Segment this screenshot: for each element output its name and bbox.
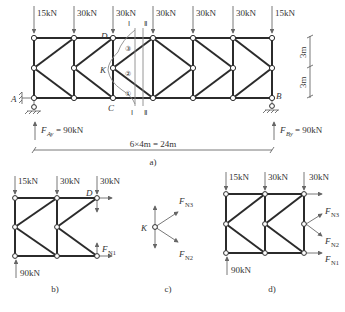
force-subscript: N2 (331, 241, 339, 248)
free-body-d: 15kN 30kN 30kN F N3 F N2 F N1 90kN d) (224, 172, 339, 294)
support-reaction: 90kN (231, 265, 252, 275)
force-symbol: F (324, 206, 331, 216)
section-label-ii: Ⅱ (144, 109, 147, 116)
reaction-b-value: = 90kN (295, 125, 323, 135)
reaction-b-subscript: By (286, 130, 293, 137)
reaction-a-value: = 90kN (56, 125, 84, 135)
member-label-1: ① (125, 90, 131, 97)
load-label: 15kN (37, 8, 58, 18)
load-label: 30kN (156, 8, 177, 18)
force-symbol: F (101, 244, 108, 254)
load-label: 30kN (268, 172, 289, 182)
truss-a: 15kN 30kN 30kN 30kN 30kN 30kN 15kN D K C… (10, 6, 323, 167)
member-label-3: ③ (125, 45, 131, 52)
caption-b: b) (51, 284, 59, 294)
load-label: 30kN (309, 172, 330, 182)
free-body-b: 15kN 30kN 30kN D F N1 90kN b) (13, 176, 121, 294)
node-label-d: D (100, 31, 108, 41)
node-label-c: C (108, 103, 115, 113)
load-label: 30kN (196, 8, 217, 18)
truss-figure: 15kN 30kN 30kN 30kN 30kN 30kN 15kN D K C… (0, 0, 345, 312)
member-label-2: ② (125, 70, 131, 77)
force-symbol: F (178, 196, 185, 206)
force-symbol: F (324, 254, 331, 264)
force-symbol: F (178, 249, 185, 259)
section-label-ii: Ⅱ (144, 20, 147, 27)
load-label: 15kN (18, 176, 39, 186)
span-dimension: 6×4m = 24m (130, 139, 177, 149)
reaction-b-symbol: F (279, 125, 286, 135)
load-label: 15kN (275, 8, 296, 18)
pin-support-a (19, 92, 41, 114)
caption-a: a) (150, 157, 157, 167)
free-body-c: K F N3 F N2 c) (140, 196, 193, 294)
node-label-k: K (99, 65, 107, 75)
caption-c: c) (165, 284, 172, 294)
load-label: 30kN (236, 8, 257, 18)
section-label-i: Ⅰ (131, 109, 133, 116)
node-label-d: D (85, 188, 93, 198)
load-label: 30kN (77, 8, 98, 18)
caption-d: d) (268, 284, 276, 294)
force-subscript: N3 (331, 211, 339, 218)
node-label-a: A (10, 94, 17, 104)
node-label-k: K (140, 223, 148, 233)
load-label: 30kN (116, 8, 137, 18)
reaction-a-symbol: F (40, 125, 47, 135)
height-dimension-top: 3m (298, 46, 308, 58)
force-subscript: N2 (185, 254, 193, 261)
support-reaction: 90kN (20, 268, 41, 278)
force-symbol: F (324, 236, 331, 246)
load-label: 15kN (229, 172, 250, 182)
force-subscript: N1 (331, 259, 339, 266)
section-label-i: Ⅰ (128, 20, 130, 27)
roller-support-b (263, 100, 279, 113)
force-subscript: N3 (185, 201, 193, 208)
height-dimension-bottom: 3m (298, 76, 308, 88)
load-label: 30kN (60, 176, 81, 186)
load-label: 30kN (100, 176, 121, 186)
reaction-a-subscript: Ay (46, 130, 54, 137)
force-subscript: N1 (108, 249, 116, 256)
node-label-b: B (276, 91, 282, 101)
